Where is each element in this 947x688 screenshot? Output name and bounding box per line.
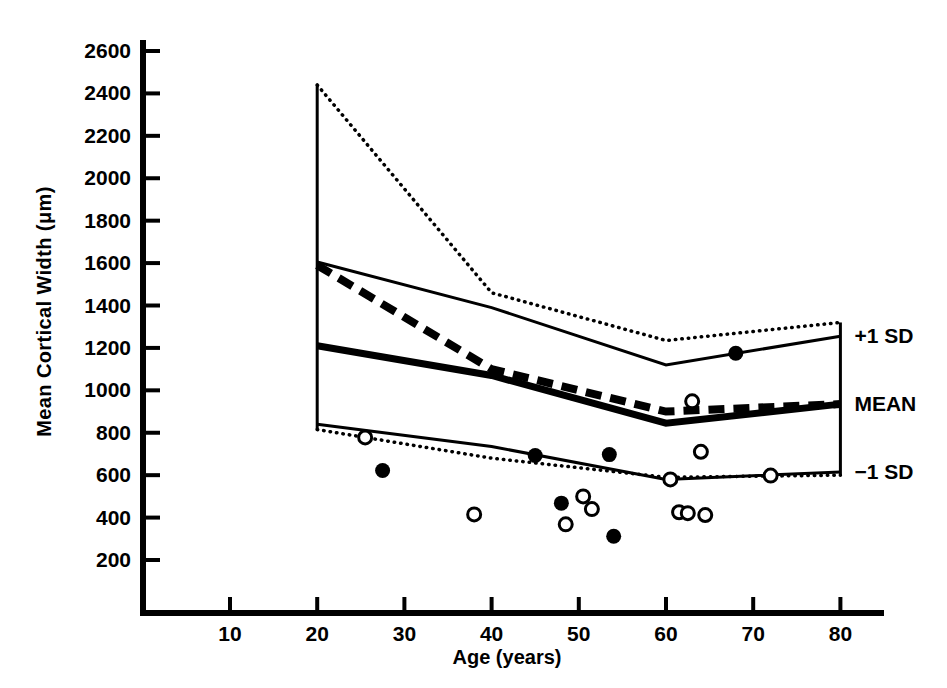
y-tick-label: 800 <box>21 422 131 443</box>
y-tick-label: 400 <box>21 507 131 528</box>
data-point-filled <box>728 346 743 361</box>
y-tick-label: 1000 <box>21 379 131 400</box>
series-label-plus-1-sd: +1 SD <box>854 324 913 348</box>
x-tick-label: 70 <box>723 623 783 644</box>
x-tick-label: 80 <box>810 623 870 644</box>
data-point-open <box>585 503 598 516</box>
y-tick-label: 2400 <box>21 82 131 103</box>
plot-area <box>0 0 947 688</box>
series-line-2 <box>317 346 840 423</box>
data-point-open <box>686 395 699 408</box>
data-point-open <box>468 508 481 521</box>
data-point-open <box>681 507 694 520</box>
x-tick-label: 50 <box>549 623 609 644</box>
y-tick-label: 1400 <box>21 295 131 316</box>
x-axis-title: Age (years) <box>143 646 871 669</box>
data-point-open <box>577 490 590 503</box>
data-point-filled <box>528 448 543 463</box>
y-tick-label: 600 <box>21 464 131 485</box>
series-line-5 <box>317 430 840 478</box>
y-tick-label: 1800 <box>21 210 131 231</box>
series-label-minus-1-sd: −1 SD <box>854 460 913 484</box>
series-line-0 <box>317 85 840 341</box>
y-tick-label: 1600 <box>21 252 131 273</box>
y-tick-label: 2000 <box>21 167 131 188</box>
series-label-mean: MEAN <box>854 392 916 416</box>
data-point-open <box>694 445 707 458</box>
x-tick-label: 10 <box>200 623 260 644</box>
data-point-open <box>664 473 677 486</box>
x-tick-label: 20 <box>287 623 347 644</box>
x-tick-label: 60 <box>636 623 696 644</box>
data-point-filled <box>602 447 617 462</box>
y-tick-label: 1200 <box>21 337 131 358</box>
x-tick-label: 40 <box>462 623 522 644</box>
data-point-filled <box>375 463 390 478</box>
data-point-open <box>559 518 572 531</box>
data-point-open <box>764 469 777 482</box>
series-line-3 <box>317 265 840 411</box>
data-point-open <box>699 509 712 522</box>
y-tick-label: 2600 <box>21 40 131 61</box>
y-tick-label: 200 <box>21 549 131 570</box>
data-point-filled <box>606 529 621 544</box>
data-point-open <box>359 431 372 444</box>
chart-container: Mean Cortical Width (μm) Age (years) 260… <box>0 0 947 688</box>
x-tick-label: 30 <box>374 623 434 644</box>
y-tick-label: 2200 <box>21 125 131 146</box>
series-line-1 <box>317 262 840 365</box>
series-line-4 <box>317 424 840 479</box>
data-point-filled <box>554 496 569 511</box>
